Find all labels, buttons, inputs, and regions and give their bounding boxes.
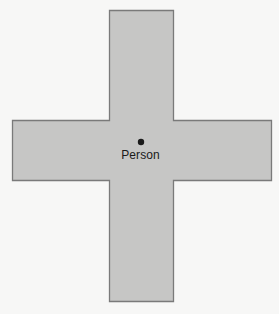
person-position-dot (138, 139, 144, 145)
person-label-text: Person (121, 148, 160, 162)
person-label: Person (0, 148, 279, 162)
